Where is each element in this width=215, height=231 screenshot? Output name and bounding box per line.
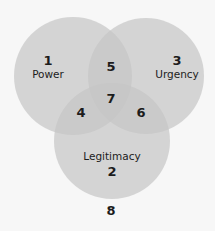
region-power-urgency: 5 <box>106 59 115 74</box>
legitimacy-number: 2 <box>107 164 116 179</box>
venn-diagram: 1 Power 3 Urgency Legitimacy 2 4 5 6 7 8 <box>0 0 215 231</box>
outside-number: 8 <box>106 203 115 218</box>
region-power-legitimacy: 4 <box>76 105 85 120</box>
urgency-number: 3 <box>172 53 181 68</box>
power-number: 1 <box>43 53 52 68</box>
power-label: Power <box>32 68 64 80</box>
region-all-three: 7 <box>106 91 115 106</box>
region-urgency-legitimacy: 6 <box>136 105 145 120</box>
urgency-label: Urgency <box>155 68 199 80</box>
legitimacy-label: Legitimacy <box>83 150 140 162</box>
